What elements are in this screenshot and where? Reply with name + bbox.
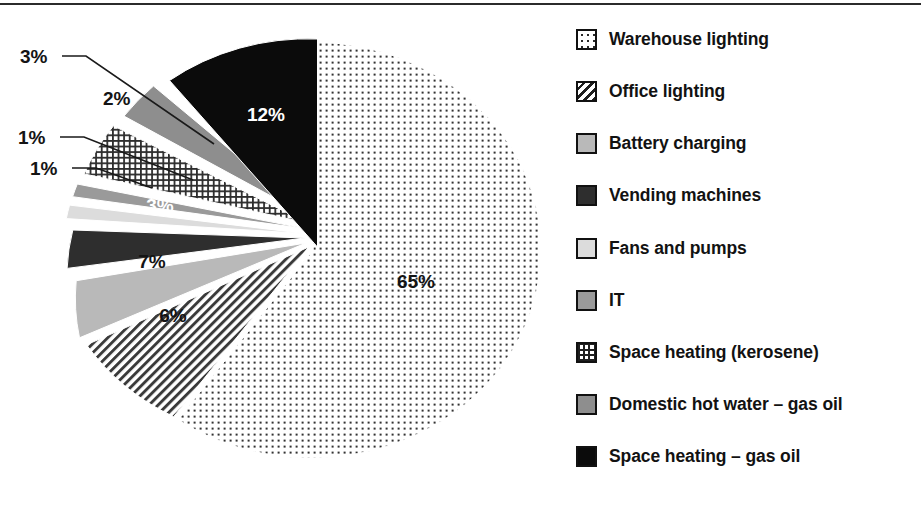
- chart-legend: Warehouse lighting Office lighting Batte…: [576, 20, 921, 490]
- legend-swatch-space-heating-kerosene-icon: [576, 342, 597, 363]
- legend-item-vending-machines[interactable]: Vending machines: [576, 182, 761, 208]
- legend-swatch-office-lighting-icon: [576, 81, 597, 102]
- legend-swatch-warehouse-lighting-icon: [576, 29, 597, 50]
- legend-label-warehouse-lighting: Warehouse lighting: [609, 29, 769, 50]
- pie-value-label-warehouse-lighting: 65%: [397, 271, 435, 292]
- legend-item-space-heating-kerosene[interactable]: Space heating (kerosene): [576, 339, 819, 365]
- legend-label-it: IT: [609, 290, 624, 311]
- pie-callout-label-space-heating-kerosene: 3%: [20, 46, 48, 67]
- legend-item-fans-and-pumps[interactable]: Fans and pumps: [576, 235, 747, 261]
- legend-swatch-vending-machines-icon: [576, 185, 597, 206]
- pie-callout-label-domestic-hot-water: 2%: [103, 88, 131, 109]
- legend-swatch-space-heating-gas-oil-icon: [576, 446, 597, 467]
- pie-callout-label-fans-and-pumps: 1%: [30, 158, 58, 179]
- legend-label-battery-charging: Battery charging: [609, 133, 746, 154]
- legend-swatch-it-icon: [576, 290, 597, 311]
- legend-item-warehouse-lighting[interactable]: Warehouse lighting: [576, 26, 769, 52]
- legend-label-vending-machines: Vending machines: [609, 185, 761, 206]
- pie-value-label-vending-machines: 3%: [146, 195, 174, 216]
- pie-value-label-space-heating-gas-oil: 12%: [247, 104, 285, 125]
- legend-item-battery-charging[interactable]: Battery charging: [576, 130, 746, 156]
- pie-chart-figure: 65% 6% 7% 3% 12% 3% 2% 1% 1% Warehouse l…: [0, 0, 921, 507]
- legend-label-domestic-hot-water-gas-oil: Domestic hot water – gas oil: [609, 394, 843, 415]
- pie-callout-label-it: 1%: [18, 127, 46, 148]
- legend-item-domestic-hot-water-gas-oil[interactable]: Domestic hot water – gas oil: [576, 391, 843, 417]
- legend-label-office-lighting: Office lighting: [609, 81, 725, 102]
- legend-item-office-lighting[interactable]: Office lighting: [576, 78, 725, 104]
- pie-value-label-battery-charging: 7%: [138, 251, 166, 272]
- legend-item-space-heating-gas-oil[interactable]: Space heating – gas oil: [576, 443, 800, 469]
- pie-chart-graphic: 65% 6% 7% 3% 12% 3% 2% 1% 1%: [0, 0, 580, 507]
- legend-swatch-fans-and-pumps-icon: [576, 238, 597, 259]
- legend-item-it[interactable]: IT: [576, 287, 624, 313]
- legend-label-fans-and-pumps: Fans and pumps: [609, 238, 747, 259]
- legend-swatch-battery-charging-icon: [576, 133, 597, 154]
- legend-label-space-heating-gas-oil: Space heating – gas oil: [609, 446, 800, 467]
- legend-label-space-heating-kerosene: Space heating (kerosene): [609, 342, 819, 363]
- pie-value-label-office-lighting: 6%: [159, 305, 187, 326]
- legend-swatch-domestic-hot-water-gas-oil-icon: [576, 394, 597, 415]
